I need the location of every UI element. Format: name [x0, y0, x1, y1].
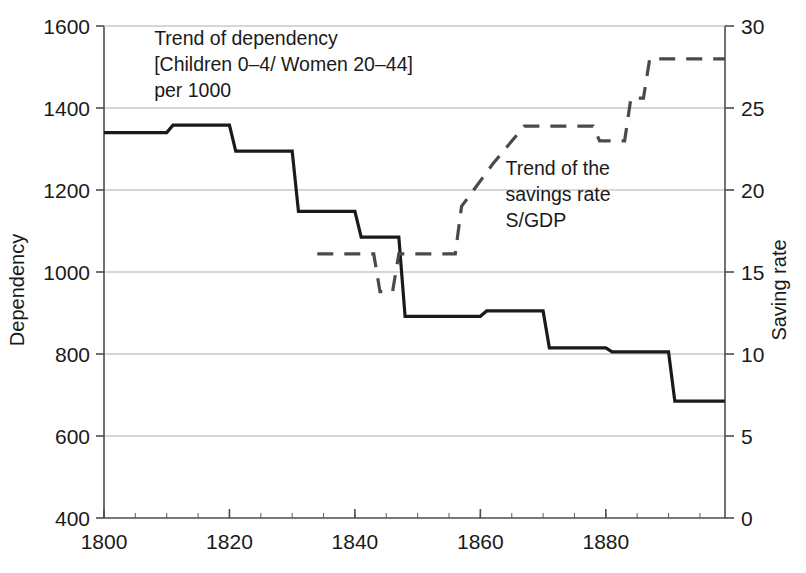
dependency-savings-rate-chart: 18001820184018601880 4006008001000120014… — [0, 0, 806, 573]
y-right-tick-label: 5 — [741, 425, 753, 448]
y-left-tick-label: 400 — [55, 507, 90, 530]
savings-annotation-line: S/GDP — [505, 209, 566, 231]
y-axis-left-title: Dependency — [6, 234, 28, 346]
dependency-annotation-line: [Children 0–4/ Women 20–44] — [154, 53, 413, 75]
x-tick-label: 1820 — [206, 530, 253, 553]
dependency-annotation-line: per 1000 — [154, 79, 231, 101]
x-tick-label: 1880 — [582, 530, 629, 553]
savings-annotation-line: savings rate — [505, 183, 610, 205]
y-right-tick-label: 0 — [741, 507, 753, 530]
y-left-tick-label: 1000 — [43, 261, 90, 284]
y-left-tick-label: 1200 — [43, 179, 90, 202]
y-left-tick-label: 1600 — [43, 15, 90, 38]
x-tick-label: 1840 — [332, 530, 379, 553]
y-left-tick-label: 600 — [55, 425, 90, 448]
savings-annotation-line: Trend of the — [505, 157, 609, 179]
chart-figure: 18001820184018601880 4006008001000120014… — [0, 0, 806, 573]
dependency-annotation-line: Trend of dependency — [154, 27, 338, 49]
y-right-tick-label: 30 — [741, 15, 764, 38]
x-tick-label: 1800 — [81, 530, 128, 553]
y-right-tick-label: 15 — [741, 261, 764, 284]
y-left-tick-label: 1400 — [43, 97, 90, 120]
x-tick-label: 1860 — [457, 530, 504, 553]
y-axis-right-title: Saving rate — [768, 239, 790, 340]
y-left-tick-label: 800 — [55, 343, 90, 366]
y-right-tick-label: 10 — [741, 343, 764, 366]
y-right-tick-label: 20 — [741, 179, 764, 202]
y-right-tick-label: 25 — [741, 97, 764, 120]
